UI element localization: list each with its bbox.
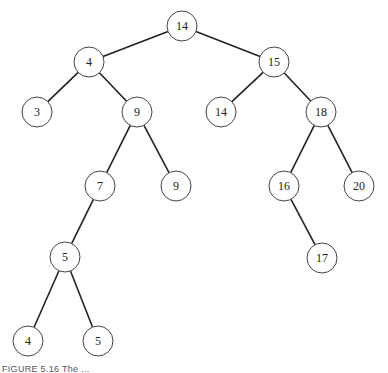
node-label: 14 — [215, 105, 227, 119]
tree-edge — [291, 125, 315, 172]
tree-edges — [34, 31, 352, 327]
tree-edge — [70, 271, 92, 327]
node-label: 17 — [316, 251, 328, 265]
tree-edge — [144, 125, 169, 172]
tree-node: 4 — [13, 326, 43, 356]
tree-edge — [48, 72, 78, 101]
tree-node: 14 — [206, 97, 236, 127]
node-label: 4 — [25, 334, 31, 348]
tree-node: 9 — [161, 171, 191, 201]
node-label: 14 — [176, 19, 188, 33]
node-label: 15 — [268, 55, 280, 69]
tree-node: 15 — [259, 47, 289, 77]
binary-tree-diagram: 1441539141879162051745 — [0, 0, 388, 373]
tree-node: 9 — [122, 97, 152, 127]
tree-node: 17 — [307, 243, 337, 273]
tree-node: 16 — [269, 171, 299, 201]
tree-edge — [328, 125, 352, 172]
tree-node: 5 — [83, 326, 113, 356]
tree-node: 7 — [85, 171, 115, 201]
tree-edge — [103, 31, 168, 56]
tree-nodes: 1441539141879162051745 — [13, 11, 374, 356]
tree-edge — [284, 73, 310, 101]
node-label: 5 — [95, 334, 101, 348]
node-label: 16 — [278, 179, 290, 193]
node-label: 9 — [134, 105, 140, 119]
node-label: 4 — [86, 55, 92, 69]
tree-node: 20 — [344, 171, 374, 201]
tree-edge — [107, 125, 131, 172]
node-label: 5 — [62, 250, 68, 264]
tree-node: 4 — [74, 47, 104, 77]
tree-node: 5 — [50, 242, 80, 272]
tree-edge — [196, 31, 260, 56]
figure-caption: FIGURE 5.16 The ... — [2, 364, 90, 373]
node-label: 9 — [173, 179, 179, 193]
tree-node: 14 — [167, 11, 197, 41]
tree-edge — [99, 73, 126, 101]
node-label: 20 — [353, 179, 365, 193]
tree-edge — [72, 199, 94, 243]
tree-node: 18 — [306, 97, 336, 127]
tree-node: 3 — [22, 97, 52, 127]
node-label: 18 — [315, 105, 327, 119]
tree-edge — [291, 199, 315, 244]
tree-edge — [232, 72, 263, 101]
tree-edge — [34, 271, 59, 328]
node-label: 3 — [34, 105, 40, 119]
node-label: 7 — [97, 179, 103, 193]
